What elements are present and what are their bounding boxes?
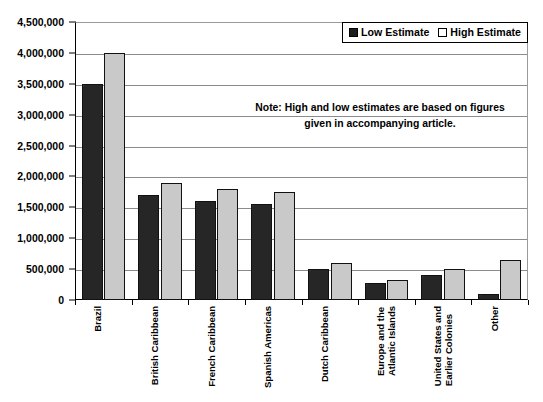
x-axis-tick-mark (528, 300, 529, 305)
bar (308, 269, 329, 300)
outlined-light-square-icon (438, 28, 447, 37)
bar-group (421, 22, 465, 300)
x-axis-category-label: Spanish Americas (262, 306, 273, 388)
chart-note: Note: High and low estimates are based o… (240, 100, 520, 131)
x-axis-category-label: French Caribbean (206, 306, 217, 387)
x-axis-tick-mark (302, 300, 303, 305)
y-axis-tick-label: 2,500,000 (17, 140, 64, 152)
bar (500, 260, 521, 300)
bar-group (478, 22, 522, 300)
bar (274, 192, 295, 300)
bar (331, 263, 352, 300)
bar-group (138, 22, 182, 300)
x-axis-tick-mark (415, 300, 416, 305)
y-axis: 0500,0001,000,0001,500,0002,000,0002,500… (0, 0, 70, 402)
y-axis-tick-label: 0 (58, 294, 64, 306)
x-axis-category-label: Dutch Caribbean (319, 306, 330, 382)
x-axis-tick-mark (188, 300, 189, 305)
bar (161, 183, 182, 300)
legend-item-label: High Estimate (450, 26, 521, 38)
bar (365, 283, 386, 300)
bar (195, 201, 216, 300)
x-axis-tick-mark (75, 300, 76, 305)
y-axis-tick-label: 1,000,000 (17, 232, 64, 244)
bar-chart: 0500,0001,000,0001,500,0002,000,0002,500… (0, 0, 543, 402)
y-axis-tick-label: 4,500,000 (17, 16, 64, 28)
bar (138, 195, 159, 300)
x-axis-tick-mark (471, 300, 472, 305)
x-axis-category-label: British Caribbean (149, 306, 160, 385)
x-axis-tick-mark (358, 300, 359, 305)
bar-group (195, 22, 239, 300)
bar (251, 204, 272, 300)
bars-layer (75, 22, 528, 300)
y-axis-tick-label: 1,500,000 (17, 201, 64, 213)
bar (82, 84, 103, 300)
bar-group (365, 22, 409, 300)
legend-item: High Estimate (438, 26, 521, 38)
x-axis-category-label: Other (489, 306, 500, 331)
y-axis-tick-label: 4,000,000 (17, 47, 64, 59)
bar (444, 269, 465, 300)
x-axis-category-label: Europe and the Atlantic Islands (375, 306, 398, 376)
legend-item-label: Low Estimate (361, 26, 429, 38)
y-axis-tick-label: 500,000 (26, 263, 64, 275)
bar-group (308, 22, 352, 300)
filled-dark-square-icon (349, 28, 358, 37)
legend-item: Low Estimate (349, 26, 429, 38)
x-axis-labels: BrazilBritish CaribbeanFrench CaribbeanS… (75, 306, 528, 402)
y-axis-tick-label: 3,000,000 (17, 109, 64, 121)
bar (387, 280, 408, 300)
x-axis-category-label: United States and Earlier Colonies (432, 306, 455, 386)
x-axis-category-label: Brazil (92, 306, 103, 332)
bar (217, 189, 238, 300)
bar (421, 275, 442, 300)
y-axis-tick-label: 2,000,000 (17, 170, 64, 182)
x-axis-tick-mark (132, 300, 133, 305)
chart-legend: Low EstimateHigh Estimate (342, 22, 528, 43)
bar-group (82, 22, 126, 300)
bar-group (251, 22, 295, 300)
chart-note-line-2: given in accompanying article. (240, 116, 520, 132)
y-axis-tick-label: 3,500,000 (17, 78, 64, 90)
x-axis-tick-mark (245, 300, 246, 305)
chart-note-line-1: Note: High and low estimates are based o… (240, 100, 520, 116)
bar (104, 53, 125, 300)
